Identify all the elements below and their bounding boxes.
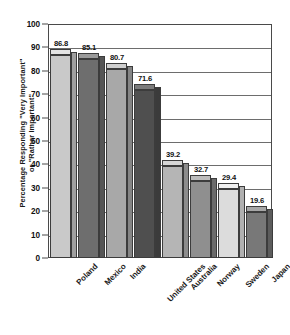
bar-value-label: 85.1: [69, 43, 109, 52]
bar-norway: [190, 181, 211, 258]
bar-side-face: [267, 209, 273, 258]
bar-front-face: [246, 212, 267, 258]
y-axis-tick-label: 70: [12, 90, 40, 99]
y-axis-tick-mark: [42, 187, 48, 188]
y-axis-tick-label: 80: [12, 66, 40, 75]
y-axis-tick-label: 10: [12, 230, 40, 239]
bar-side-face: [99, 56, 105, 258]
y-axis-tick-mark: [42, 47, 48, 48]
bar-poland: [50, 55, 71, 258]
bar-chart: Percentage Responding "Very Important" o…: [0, 0, 290, 335]
y-axis-tick-label: 90: [12, 43, 40, 52]
bar-side-face: [183, 163, 189, 258]
x-axis-label-sweden: Sweden: [243, 262, 270, 289]
y-axis-tick-label: 100: [12, 20, 40, 29]
y-axis-tick-mark: [42, 24, 48, 25]
y-axis-tick-mark: [42, 258, 48, 259]
y-axis-tick-label: 0: [12, 254, 40, 263]
bar-japan: [246, 212, 267, 258]
bar-united-states: [134, 90, 155, 258]
x-axis-label-japan: Japan: [269, 262, 290, 284]
x-axis-label-poland: Poland: [74, 262, 99, 287]
bar-side-face: [71, 52, 77, 258]
x-axis-label-india: India: [128, 262, 147, 281]
bar-value-label: 29.4: [209, 173, 249, 182]
bar-value-label: 71.6: [125, 74, 165, 83]
y-axis-tick-mark: [42, 164, 48, 165]
y-axis-tick-mark: [42, 234, 48, 235]
y-axis-tick-label: 50: [12, 137, 40, 146]
y-axis-tick-label: 60: [12, 113, 40, 122]
bar-sweden: [218, 189, 239, 258]
bar-front-face: [218, 189, 239, 258]
bar-front-face: [50, 55, 71, 258]
x-axis-labels: PolandMexicoIndiaUnited StatesAustraliaN…: [48, 258, 272, 335]
bar-australia: [162, 166, 183, 258]
bar-side-face: [127, 66, 133, 258]
bar-front-face: [78, 59, 99, 258]
y-axis-tick-mark: [42, 211, 48, 212]
y-axis-tick-label: 30: [12, 183, 40, 192]
bar-front-face: [134, 90, 155, 258]
bar-india: [106, 69, 127, 258]
x-axis-label-norway: Norway: [215, 262, 241, 288]
y-axis-tick-mark: [42, 117, 48, 118]
bar-value-label: 19.6: [237, 196, 277, 205]
bar-front-face: [106, 69, 127, 258]
x-axis-label-mexico: Mexico: [102, 262, 127, 287]
bar-front-face: [162, 166, 183, 258]
bar-value-label: 80.7: [97, 53, 137, 62]
y-axis-tick-mark: [42, 70, 48, 71]
bar-side-face: [155, 87, 161, 258]
y-axis-tick-mark: [42, 94, 48, 95]
bar-front-face: [190, 181, 211, 258]
y-axis-tick-mark: [42, 141, 48, 142]
y-axis-tick-label: 40: [12, 160, 40, 169]
bars-container: 86.885.180.771.639.232.729.419.6: [48, 24, 272, 258]
bar-side-face: [211, 178, 217, 258]
bar-mexico: [78, 59, 99, 258]
y-axis-tick-label: 20: [12, 207, 40, 216]
bar-value-label: 39.2: [153, 150, 193, 159]
